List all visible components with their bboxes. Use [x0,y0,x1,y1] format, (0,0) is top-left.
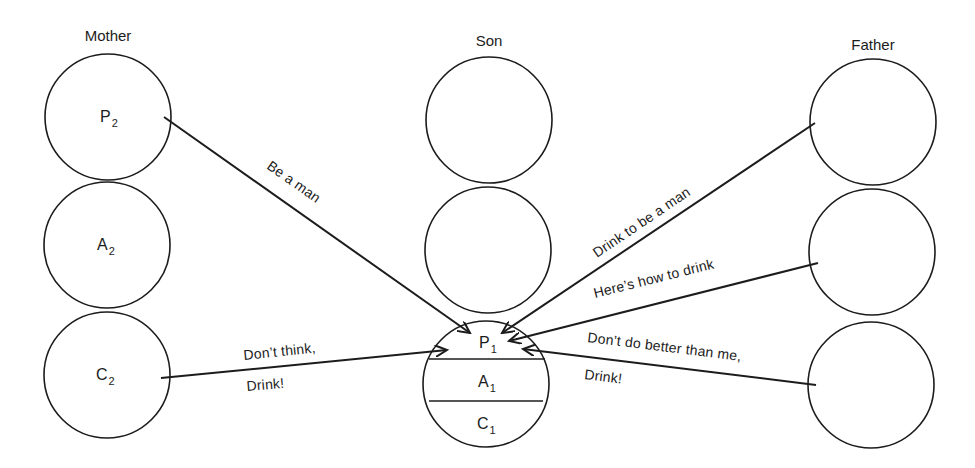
message-dont-do-better: Don’t do better than me, [587,329,743,364]
son-adult-circle [425,187,551,313]
son-header: Son [476,32,503,49]
son-parent-circle [426,57,552,183]
mother-ego-states: P2 A2 C2 [44,54,171,438]
message-drink-mother: Drink! [246,375,285,394]
message-drink-father: Drink! [584,366,623,386]
message-drink-to-be-a-man: Drink to be a man [590,184,693,261]
father-header: Father [851,36,894,53]
message-dont-think: Don’t think, [243,339,317,362]
father-adult-circle [809,189,935,315]
father-parent-circle [810,59,936,185]
arrow-drink-to-be-a-man [502,123,815,333]
script-diagram: Mother Son Father P2 A2 C2 P1 A1 C1 Be a… [0,0,975,468]
father-child-circle [808,322,934,448]
father-ego-states [808,59,936,448]
arrow-be-a-man [164,117,470,333]
son-ego-states: P1 A1 C1 [423,57,552,447]
message-be-a-man: Be a man [264,157,324,205]
mother-header: Mother [85,27,132,44]
